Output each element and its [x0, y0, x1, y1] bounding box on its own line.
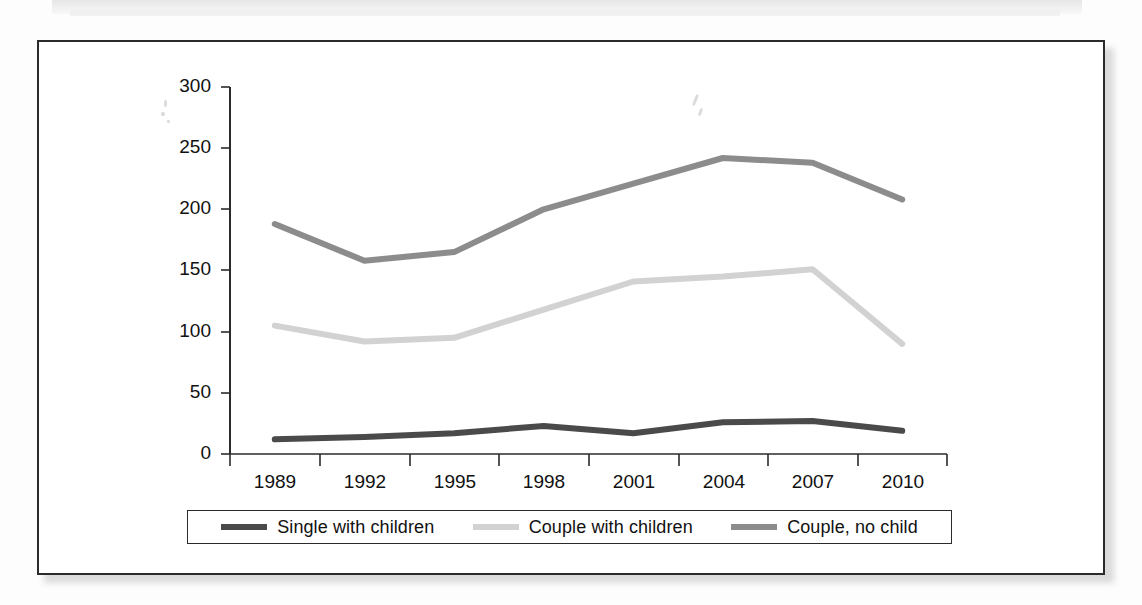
legend-swatch-icon [731, 524, 777, 530]
x-tick-label: 2010 [858, 471, 948, 493]
legend-swatch-icon [221, 524, 267, 530]
x-tick-label: 2007 [768, 471, 858, 493]
y-tick-label: 0 [125, 442, 211, 464]
y-tick-label: 200 [125, 197, 211, 219]
x-tick-label: 1989 [230, 471, 320, 493]
scanned-page: 300 250 200 150 100 50 0 1989 1992 1995 … [0, 0, 1142, 605]
legend-entry-couple-no-child[interactable]: Couple, no child [731, 517, 918, 538]
series-line-couple-with-children [275, 269, 902, 344]
series-line-single-with-children [275, 421, 902, 439]
legend-swatch-icon [473, 524, 519, 530]
x-tick-label: 1995 [410, 471, 500, 493]
legend-label: Single with children [277, 517, 434, 538]
line-chart-plot [39, 42, 1107, 577]
series-paths [275, 158, 902, 439]
y-axis-ticks [221, 87, 230, 454]
legend-label: Couple, no child [787, 517, 918, 538]
legend-entry-couple-with-children[interactable]: Couple with children [473, 517, 693, 538]
y-tick-label: 100 [125, 320, 211, 342]
y-tick-label: 250 [125, 136, 211, 158]
x-tick-label: 1998 [499, 471, 589, 493]
x-axis-ticks [230, 454, 947, 466]
series-line-couple-no-child [275, 158, 902, 261]
y-tick-label: 50 [125, 381, 211, 403]
y-tick-label: 150 [125, 258, 211, 280]
chart-figure: 300 250 200 150 100 50 0 1989 1992 1995 … [37, 40, 1105, 575]
x-tick-label: 1992 [320, 471, 410, 493]
legend-entry-single-with-children[interactable]: Single with children [221, 517, 434, 538]
x-tick-label: 2001 [589, 471, 679, 493]
legend-label: Couple with children [529, 517, 693, 538]
scan-artifact-band-secondary [70, 10, 1060, 16]
y-tick-label: 300 [125, 75, 211, 97]
chart-legend: Single with children Couple with childre… [187, 510, 952, 544]
chart-axes [230, 87, 947, 454]
x-tick-label: 2004 [679, 471, 769, 493]
